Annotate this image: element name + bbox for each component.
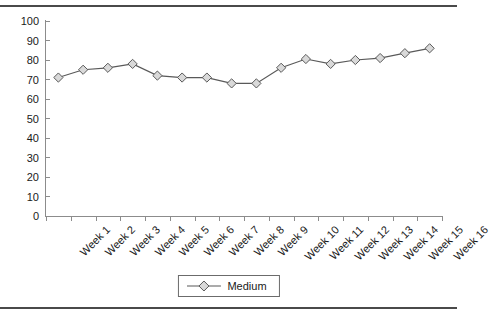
data-point-4: [128, 59, 137, 68]
x-tick-mark-16: [442, 216, 443, 221]
data-point-10: [277, 63, 286, 72]
y-tick-label-70: 70: [27, 74, 46, 85]
x-tick-mark-8: [244, 216, 245, 221]
chart-legend: Medium: [177, 275, 279, 297]
y-tick-label-0: 0: [33, 211, 46, 222]
y-tick-label-40: 40: [27, 133, 46, 144]
data-point-9: [252, 79, 261, 88]
data-point-15: [400, 49, 409, 58]
x-tick-mark-9: [269, 216, 270, 221]
x-tick-mark-7: [219, 216, 220, 221]
y-tick-label-30: 30: [27, 152, 46, 163]
x-tick-mark-5: [170, 216, 171, 221]
y-tick-label-80: 80: [27, 55, 46, 66]
x-tick-mark-13: [368, 216, 369, 221]
y-tick-label-60: 60: [27, 94, 46, 105]
bottom-divider: [0, 307, 457, 309]
x-tick-mark-6: [195, 216, 196, 221]
x-tick-mark-10: [294, 216, 295, 221]
x-axis-labels: Week 1Week 2Week 3Week 4Week 5Week 6Week…: [46, 222, 442, 282]
x-tick-mark-0: [46, 216, 47, 221]
data-point-12: [326, 59, 335, 68]
y-tick-label-100: 100: [21, 16, 46, 27]
data-point-3: [103, 63, 112, 72]
x-tick-mark-11: [318, 216, 319, 221]
data-point-16: [425, 44, 434, 53]
data-point-1: [54, 73, 63, 82]
data-point-11: [301, 54, 310, 63]
y-tick-label-90: 90: [27, 35, 46, 46]
y-tick-label-20: 20: [27, 172, 46, 183]
data-point-8: [227, 79, 236, 88]
data-point-2: [79, 65, 88, 74]
legend-marker-icon: [186, 280, 220, 292]
data-point-6: [178, 73, 187, 82]
x-tick-mark-14: [393, 216, 394, 221]
y-tick-label-50: 50: [27, 113, 46, 124]
data-point-7: [202, 73, 211, 82]
x-tick-mark-15: [417, 216, 418, 221]
x-tick-mark-12: [343, 216, 344, 221]
series-line-medium: [58, 48, 429, 83]
x-tick-mark-4: [145, 216, 146, 221]
data-point-14: [376, 53, 385, 62]
series-medium: [46, 21, 442, 216]
plot-area: 1009080706050403020100: [46, 21, 442, 216]
y-tick-label-10: 10: [27, 191, 46, 202]
x-tick-mark-2: [96, 216, 97, 221]
data-point-5: [153, 71, 162, 80]
x-tick-mark-1: [71, 216, 72, 221]
top-divider: [0, 5, 457, 7]
data-point-13: [351, 55, 360, 64]
x-tick-mark-3: [120, 216, 121, 221]
legend-label-medium: Medium: [227, 280, 266, 292]
